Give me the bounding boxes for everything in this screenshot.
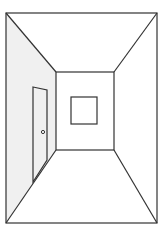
door-knob (41, 130, 44, 133)
window (71, 97, 97, 124)
hallway-diagram (0, 0, 166, 231)
door (33, 87, 47, 182)
ceiling-right-edge (114, 13, 157, 72)
left-wall (6, 13, 56, 223)
floor-right-edge (114, 150, 157, 223)
back-wall (56, 72, 114, 150)
